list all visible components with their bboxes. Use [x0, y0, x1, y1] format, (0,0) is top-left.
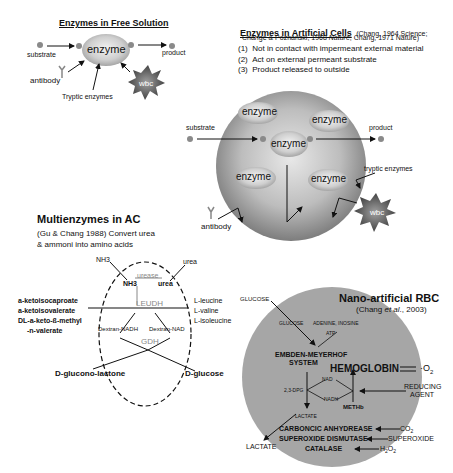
- atp-label: ATP: [326, 330, 335, 336]
- leudh-label: LEUDH: [136, 299, 163, 308]
- left-substrates: a-ketoisocaproate a-ketoisovalerate DL-a…: [18, 296, 82, 336]
- multienzymes-graphics: [88, 262, 195, 406]
- nano-rbc-title: Nano-artificial RBC: [339, 292, 439, 304]
- citation-etal: et al: [384, 305, 399, 314]
- free-solution-title: Enzymes in Free Solution: [59, 18, 169, 28]
- reducing-line1: REDUCING: [404, 383, 441, 390]
- right-products: L-leucine L-valine L-isoleucine: [194, 296, 231, 326]
- glucose-label: D-glucose: [185, 369, 224, 378]
- substrate-label: substrate: [27, 51, 56, 58]
- substrate-item: a-ketoisovalerate: [18, 306, 82, 316]
- embden-line1: EMBDEN-MEYERHOF: [275, 351, 347, 358]
- point-number: (3): [238, 65, 248, 74]
- co2-subscript: 2: [411, 428, 414, 434]
- product-item: L-valine: [194, 306, 231, 316]
- nad-label: NAD: [322, 376, 333, 382]
- dextran-nad: Dextran-NAD: [149, 326, 185, 332]
- o2-subscript: 2: [430, 369, 433, 375]
- dextran-nadh: Dextran-NADH: [98, 326, 138, 332]
- glucose-outer: GLUCOSE: [240, 296, 269, 302]
- point-2: (2) Act on external permeant substrate: [238, 55, 377, 64]
- carbonic-anhydrase: CARBONCIC ANHYDREASE: [279, 425, 372, 432]
- adenine-inosine: ADENINE, INOSINE: [313, 320, 359, 326]
- substrate-item: -n-valerate: [18, 326, 82, 336]
- cell-enzyme-4: enzyme: [311, 173, 346, 184]
- product-label: product: [162, 49, 185, 56]
- superoxide-label: SUPEROXIDE: [388, 435, 434, 442]
- citation-part: ; Chang, 1971 Nature): [350, 34, 419, 41]
- point-number: (2): [238, 55, 248, 64]
- lactate-inner: LACTATE: [295, 413, 317, 419]
- urea-inner: urea: [158, 280, 173, 287]
- methb-label: METHb: [343, 404, 364, 410]
- multienzymes-subtitle-1: (Gu & Chang 1988) Convert urea: [37, 229, 155, 238]
- tryptic-enzymes-label: Tryptic enzymes: [62, 93, 113, 100]
- h2o2-sub: 2: [393, 448, 396, 454]
- substrate-item: a-ketoisocaproate: [18, 296, 82, 306]
- reducing-line2: AGENT: [410, 391, 434, 398]
- superoxide-dismutase: SUPEROXIDE DISMUTASE: [279, 435, 368, 442]
- point-text: Not in contact with impermeant external …: [252, 44, 423, 53]
- glucono-lactone-label: D-glucono-lactone: [55, 369, 125, 378]
- cell-substrate-label: substrate: [186, 124, 215, 131]
- lactate-outer: LACTATE: [246, 443, 276, 450]
- point-number: (1): [238, 44, 248, 53]
- nano-rbc-citation: (Chang et al., 2003): [356, 305, 427, 314]
- nadh-label: NADH: [324, 396, 338, 402]
- hemoglobin-label: HEMOGLOBIN: [330, 363, 399, 374]
- cell-enzyme-center: enzyme: [271, 138, 306, 149]
- o2-label: ·O2: [420, 363, 433, 375]
- citation-journal: Nature: [329, 34, 350, 41]
- citation-line2: Change & Poznanski, 1968 Nature; Chang, …: [242, 34, 419, 41]
- multienzymes-title: Multienzymes in AC: [37, 213, 141, 225]
- cell-antibody-label: antibody: [201, 222, 231, 231]
- cell-enzyme-3: enzyme: [236, 171, 271, 182]
- gdh-label: GDH: [141, 337, 159, 346]
- product-item: L-isoleucine: [194, 316, 231, 326]
- cell-product-label: product: [369, 124, 392, 131]
- embden-line2: SYSTEM: [289, 359, 318, 366]
- point-1: (1) Not in contact with impermeant exter…: [238, 44, 423, 53]
- cell-wbc-label: wbc: [370, 208, 384, 217]
- glucose-inner: GLUCOSE: [279, 320, 303, 326]
- citation-part: ., 2003): [400, 305, 427, 314]
- antibody-label: antibody: [30, 76, 60, 85]
- product-item: L-leucine: [194, 296, 231, 306]
- o2-text: O: [423, 363, 430, 373]
- citation-part: (Chang: [356, 305, 384, 314]
- dpg-label: 2,3-DPG: [284, 387, 303, 393]
- substrate-item: DL-a-keto-ß-methyl: [18, 316, 82, 326]
- citation-part: Change & Poznanski, 1968: [242, 34, 329, 41]
- multienzymes-subtitle-2: & ammoni into amino acids: [37, 240, 133, 249]
- enzyme-label: enzyme: [87, 43, 126, 55]
- point-text: Product released to outside: [252, 65, 349, 74]
- point-text: Act on external permeant substrate: [252, 55, 377, 64]
- wbc-label: wbc: [139, 79, 153, 88]
- nh3-inner: NH3: [123, 280, 137, 287]
- urease-label: urease: [137, 272, 158, 279]
- nh3-outer: NH3: [96, 256, 110, 263]
- co2-text: CO: [400, 425, 411, 432]
- cell-enzyme-2: enzyme: [312, 114, 347, 125]
- co2-label: CO2: [400, 425, 413, 434]
- cell-enzyme-1: enzyme: [242, 106, 277, 117]
- catalase-label: CATALASE: [305, 445, 342, 452]
- h2o2-label: H2O2: [380, 445, 396, 454]
- point-3: (3) Product released to outside: [238, 65, 350, 74]
- urea-outer: urea: [183, 258, 197, 265]
- cell-tryptic-label: tryptic enzymes: [364, 165, 413, 172]
